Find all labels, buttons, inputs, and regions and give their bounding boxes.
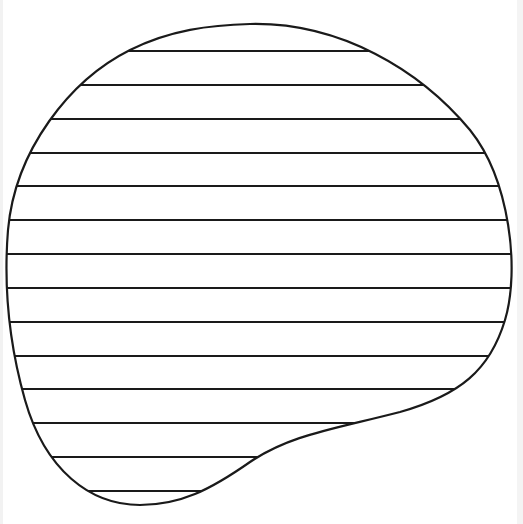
- blob-outline: [7, 24, 512, 505]
- hatch-lines: [0, 51, 523, 491]
- hatched-blob-figure: [0, 0, 523, 524]
